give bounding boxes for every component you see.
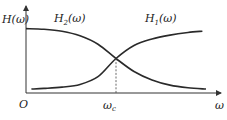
x-axis-label: ω — [215, 99, 224, 112]
x-tick-label-omega-c: ωc — [103, 99, 116, 113]
series-h2-label: H2(ω) — [53, 12, 86, 27]
series-h1-label: H1(ω) — [144, 12, 177, 27]
y-axis-label: H(ω) — [1, 13, 29, 26]
filter-response-diagram: H(ω) H2(ω) H1(ω) O ωc ω — [0, 0, 227, 120]
origin-label: O — [19, 98, 28, 111]
